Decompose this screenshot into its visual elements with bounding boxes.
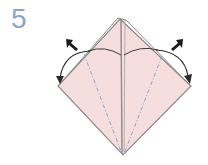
center-crease: [121, 19, 122, 154]
origami-diagram: [0, 0, 208, 165]
push-arrow-right-icon: [171, 39, 183, 51]
push-arrow-left-icon: [66, 39, 78, 51]
